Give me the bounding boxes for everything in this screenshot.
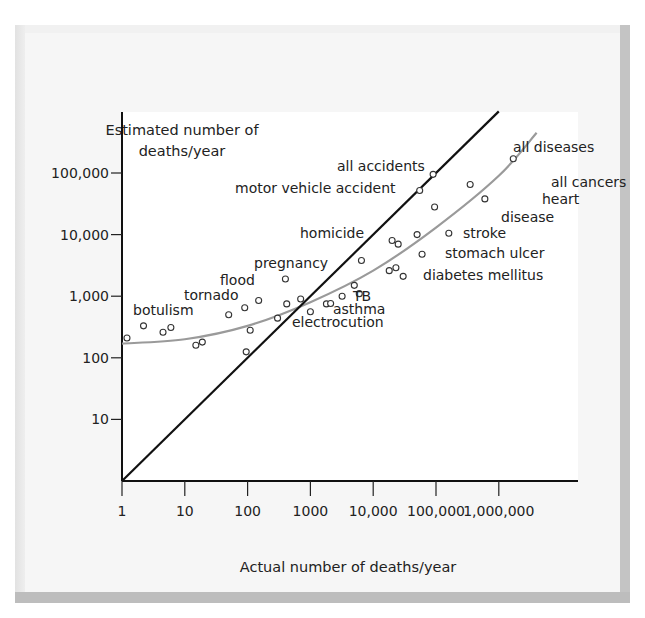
point-label: heart <box>542 191 580 207</box>
data-point <box>432 204 438 210</box>
point-label: homicide <box>300 225 364 241</box>
data-point <box>247 327 253 333</box>
point-label: pregnancy <box>254 255 328 271</box>
data-point <box>417 187 423 193</box>
data-point <box>395 241 401 247</box>
data-point <box>256 298 262 304</box>
data-point <box>467 182 473 188</box>
data-point <box>400 273 406 279</box>
point-label: electrocution <box>292 314 384 330</box>
data-point <box>482 196 488 202</box>
y-axis-label-line-1: Estimated number of <box>105 122 259 138</box>
y-tick-label: 100 <box>82 350 109 366</box>
data-point <box>358 257 364 263</box>
data-point <box>339 293 345 299</box>
x-axis-label: Actual number of deaths/year <box>240 559 457 575</box>
data-point <box>141 323 147 329</box>
point-label: botulism <box>133 302 194 318</box>
x-tick-label: 10,000 <box>349 503 398 519</box>
x-tick-label: 1000 <box>293 503 329 519</box>
data-point <box>393 265 399 271</box>
y-axis-label-line-2: deaths/year <box>139 143 226 159</box>
data-point <box>386 268 392 274</box>
y-tick-label: 10 <box>91 411 109 427</box>
point-label: flood <box>220 272 255 288</box>
x-tick-label: 1,000,000 <box>463 503 534 519</box>
data-point <box>242 305 248 311</box>
x-tick-label: 1 <box>118 503 127 519</box>
scatter-chart: Estimated number of deaths/year Actual n… <box>0 0 645 618</box>
data-point <box>226 312 232 318</box>
data-point <box>160 329 166 335</box>
data-point <box>414 232 420 238</box>
data-point <box>168 325 174 331</box>
data-point <box>510 156 516 162</box>
y-tick-label: 10,000 <box>60 227 109 243</box>
data-point <box>284 301 290 307</box>
data-point <box>419 251 425 257</box>
data-point <box>275 315 281 321</box>
data-point <box>124 335 130 341</box>
data-point <box>243 349 249 355</box>
point-label: all diseases <box>513 139 594 155</box>
y-tick-label: 100,000 <box>51 165 109 181</box>
data-point <box>282 276 288 282</box>
x-tick-label: 100,000 <box>407 503 465 519</box>
point-label: tornado <box>184 287 238 303</box>
point-label: all cancers <box>551 174 626 190</box>
point-label: stroke <box>463 225 506 241</box>
x-tick-label: 100 <box>234 503 261 519</box>
data-point <box>430 171 436 177</box>
data-point <box>199 339 205 345</box>
x-tick-label: 10 <box>176 503 194 519</box>
point-label: motor vehicle accident <box>235 180 396 196</box>
data-point <box>446 230 452 236</box>
data-point <box>389 238 395 244</box>
point-label: stomach ulcer <box>445 245 545 261</box>
data-point <box>193 342 199 348</box>
point-label: disease <box>501 209 554 225</box>
point-label: diabetes mellitus <box>423 267 543 283</box>
point-label: all accidents <box>337 158 425 174</box>
data-point <box>298 296 304 302</box>
y-tick-label: 1,000 <box>69 288 109 304</box>
